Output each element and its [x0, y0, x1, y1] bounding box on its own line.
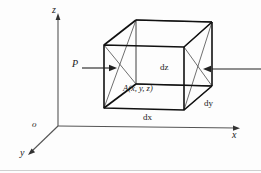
pressure-arrow-right-head — [203, 66, 211, 72]
y-axis-label: y — [20, 148, 24, 158]
origin-label: o — [32, 120, 37, 129]
page-edge-line — [0, 170, 261, 171]
pressure-label: P — [72, 59, 78, 69]
z-axis-label: z — [52, 5, 56, 15]
pressure-arrow-left-head — [109, 65, 117, 71]
dy-edge-label: dy — [204, 99, 213, 108]
pressure-arrow-left — [82, 65, 117, 71]
y-axis-line — [31, 126, 58, 152]
x-axis-label: x — [232, 130, 236, 140]
front-face-outline — [104, 45, 184, 110]
rear-top-edge — [136, 20, 212, 22]
z-axis-arrowhead — [56, 13, 61, 20]
dx-edge-label: dx — [143, 113, 152, 122]
inner-edges — [136, 20, 212, 86]
x-axis-line — [58, 126, 237, 128]
dz-edge-label: dz — [160, 63, 169, 72]
figure-container: z o x y P dz dx dy A(x, y, z) — [0, 0, 261, 173]
point-a-label: A(x, y, z) — [123, 84, 153, 93]
